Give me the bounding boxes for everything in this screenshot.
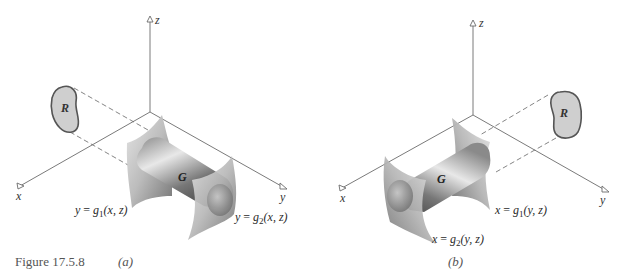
surface-equation-g1-a: y = g1(x, z): [75, 203, 128, 219]
z-arrow-icon: [147, 16, 153, 22]
surface-equation-g2-b: x = g2(y, z): [432, 232, 484, 248]
surface-equation-g2-a: y = g2(x, z): [235, 210, 288, 226]
cylinder-end-cap-b: [387, 180, 413, 212]
y-axis-b: [473, 115, 605, 190]
panel-label-b: (b): [448, 254, 463, 270]
y-arrow-icon: [602, 186, 609, 192]
projection-lines-b: [480, 95, 556, 172]
figure-canvas: [0, 0, 632, 277]
panel-label-a: (a): [118, 254, 133, 270]
solid-label-a: G: [178, 170, 187, 185]
z-axis-label-a: z: [155, 13, 160, 28]
z-arrow-icon: [470, 20, 476, 26]
region-label-a: R: [61, 101, 69, 116]
z-axis-label-b: z: [479, 16, 484, 31]
x-axis-label-b: x: [340, 191, 345, 206]
figure-caption: Figure 17.5.8: [15, 254, 85, 270]
panel-a: [17, 16, 287, 240]
solid-label-b: G: [437, 172, 446, 187]
y-arrow-icon: [280, 183, 287, 189]
cylinder-end-cap-a: [207, 184, 233, 216]
region-label-b: R: [560, 106, 568, 121]
y-axis-label-a: y: [280, 190, 285, 205]
x-axis-label-a: x: [16, 189, 21, 204]
y-axis-label-b: y: [600, 193, 605, 208]
surface-equation-g1-b: x = g1(y, z): [495, 203, 547, 219]
panel-b: [339, 20, 609, 244]
